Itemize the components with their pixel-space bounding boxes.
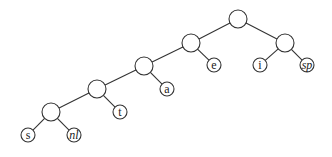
tree-edge-n2-i <box>265 49 278 60</box>
leaf-node-sp: sp <box>300 58 314 72</box>
tree-edge-n2-sp <box>291 49 302 60</box>
internal-node-n4 <box>88 80 106 98</box>
tree-diagram: eispatsnl <box>0 0 332 157</box>
tree-edge-root-n2 <box>246 23 277 39</box>
tree-edges <box>33 23 302 130</box>
node-circle <box>182 34 200 52</box>
node-circle <box>42 103 60 121</box>
tree-edge-n1-e <box>198 49 209 60</box>
node-circle <box>135 57 153 75</box>
internal-node-n5 <box>42 103 60 121</box>
leaf-node-e: e <box>207 58 221 72</box>
node-label: nl <box>69 128 79 142</box>
leaf-node-i: i <box>253 58 267 72</box>
node-circle <box>229 10 247 28</box>
leaf-node-nl: nl <box>67 128 81 142</box>
tree-nodes: eispatsnl <box>21 10 314 142</box>
tree-edge-n5-nl <box>57 118 69 130</box>
tree-edge-n5-s <box>33 118 45 130</box>
node-circle <box>88 80 106 98</box>
node-label: e <box>211 58 216 72</box>
internal-node-root <box>229 10 247 28</box>
leaf-node-a: a <box>160 82 174 96</box>
node-circle <box>276 34 294 52</box>
tree-edge-n1-n3 <box>152 47 183 62</box>
tree-edge-n3-n4 <box>105 70 136 85</box>
leaf-node-s: s <box>21 128 35 142</box>
tree-edge-n3-a <box>150 72 162 84</box>
leaf-node-t: t <box>113 105 127 119</box>
tree-edge-n4-t <box>103 95 115 107</box>
node-label: sp <box>302 58 313 72</box>
node-label: s <box>26 128 31 142</box>
internal-node-n2 <box>276 34 294 52</box>
tree-edge-root-n1 <box>199 23 230 39</box>
node-label: a <box>164 82 170 96</box>
tree-edge-n4-n5 <box>59 93 89 108</box>
internal-node-n1 <box>182 34 200 52</box>
internal-node-n3 <box>135 57 153 75</box>
